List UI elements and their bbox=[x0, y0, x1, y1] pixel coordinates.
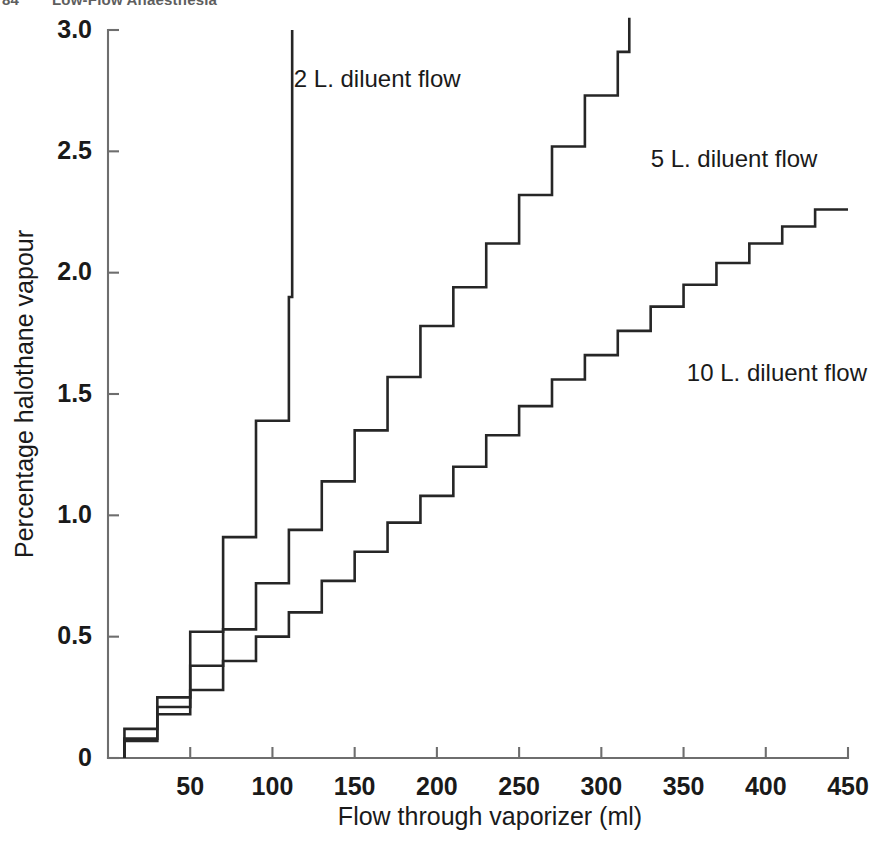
y-tick-label: 0.5 bbox=[57, 621, 92, 649]
series-line-2 bbox=[124, 18, 629, 758]
y-tick-label: 1.5 bbox=[57, 379, 92, 407]
series-line-3 bbox=[124, 210, 848, 758]
y-tick-label: 0 bbox=[78, 743, 92, 771]
y-axis-title: Percentage halothane vapour bbox=[10, 230, 38, 558]
x-tick-label: 250 bbox=[498, 772, 540, 800]
x-tick-label: 50 bbox=[176, 772, 204, 800]
series-label-3: 10 L. diluent flow bbox=[687, 359, 868, 386]
y-axis-ticks bbox=[108, 30, 119, 758]
series-line-1 bbox=[124, 30, 292, 758]
x-tick-label: 100 bbox=[252, 772, 294, 800]
x-tick-label: 200 bbox=[416, 772, 458, 800]
x-tick-label: 300 bbox=[580, 772, 622, 800]
series-label-2: 5 L. diluent flow bbox=[651, 145, 818, 172]
x-tick-label: 150 bbox=[334, 772, 376, 800]
y-tick-label: 2.5 bbox=[57, 136, 92, 164]
series-label-1: 2 L. diluent flow bbox=[294, 65, 461, 92]
x-axis-tick-labels: 50100150200250300350400450 bbox=[176, 772, 869, 800]
y-tick-label: 1.0 bbox=[57, 500, 92, 528]
y-axis-tick-labels: 00.51.01.52.02.53.0 bbox=[57, 15, 92, 771]
figure-container: 84 Low-Flow Anaesthesia 00.51.01.52.02.5… bbox=[0, 0, 882, 865]
x-tick-label: 350 bbox=[663, 772, 705, 800]
x-axis-ticks bbox=[190, 747, 848, 758]
y-tick-label: 2.0 bbox=[57, 257, 92, 285]
step-chart: 00.51.01.52.02.53.0 50100150200250300350… bbox=[0, 0, 882, 865]
x-tick-label: 450 bbox=[827, 772, 869, 800]
x-axis-title: Flow through vaporizer (ml) bbox=[338, 802, 642, 830]
y-tick-label: 3.0 bbox=[57, 15, 92, 43]
chart-axes bbox=[108, 30, 848, 758]
chart-series-group bbox=[124, 18, 848, 758]
x-tick-label: 400 bbox=[745, 772, 787, 800]
